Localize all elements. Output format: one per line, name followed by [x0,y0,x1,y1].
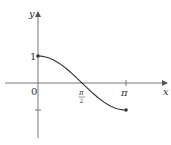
x-tick-label-pi-half-num: π [78,89,84,97]
origin-label: 0 [31,86,37,97]
end-point [124,108,128,112]
x-tick-label-pi-half-den: 2 [80,97,84,104]
y-axis-label: y [28,8,35,19]
x-axis-label: x [163,86,169,97]
y-tick-label-one: 1 [30,51,36,62]
x-tick-label-pi: π [120,87,128,98]
start-point [36,54,40,58]
cosine-graph: y x 0 1 π 2 π [0,0,171,145]
